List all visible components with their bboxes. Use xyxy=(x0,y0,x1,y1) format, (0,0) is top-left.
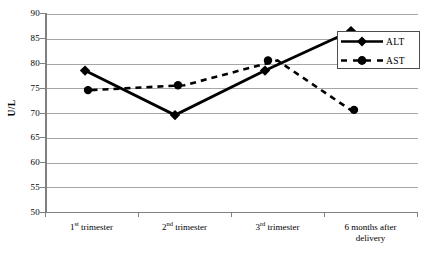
x-axis-label-2: 2nd trimester xyxy=(138,222,231,233)
y-tick-mark-60 xyxy=(40,162,45,163)
y-tick-mark-80 xyxy=(40,63,45,64)
x-axis-label-4-line1: 6 months after xyxy=(324,222,417,233)
legend-item-alt: ALT xyxy=(338,32,419,51)
x-tick-mark-2 xyxy=(231,212,232,217)
x-tick-mark-4 xyxy=(417,212,418,217)
legend-key-ast-icon xyxy=(338,51,386,70)
y-tick-label-80: 80 xyxy=(4,59,40,68)
x-axis-label-1-rest: trimester xyxy=(79,222,113,232)
x-axis-label-4-line2: delivery xyxy=(324,233,417,244)
x-axis-label-4: 6 months after delivery xyxy=(324,222,417,244)
legend-key-alt-icon xyxy=(338,32,386,51)
y-tick-label-50: 50 xyxy=(4,208,40,217)
y-tick-mark-70 xyxy=(40,113,45,114)
y-tick-label-85: 85 xyxy=(4,34,40,43)
x-tick-mark-3 xyxy=(324,212,325,217)
x-axis-label-3-rest: trimester xyxy=(265,222,299,232)
x-axis-label-1: 1st trimester xyxy=(45,222,138,233)
x-tick-mark-0 xyxy=(45,212,46,217)
y-tick-mark-65 xyxy=(40,137,45,138)
y-tick-mark-55 xyxy=(40,187,45,188)
y-tick-mark-85 xyxy=(40,38,45,39)
gridline-75 xyxy=(45,88,418,89)
y-axis-title: U/L xyxy=(7,88,17,128)
y-axis-labels: 90 85 80 75 70 65 60 55 50 xyxy=(0,0,40,263)
y-tick-label-90: 90 xyxy=(4,9,40,18)
x-axis-label-3: 3rd trimester xyxy=(231,222,324,233)
gridline-60 xyxy=(45,163,418,164)
gridline-90 xyxy=(45,14,418,15)
line-chart: 90 85 80 75 70 65 60 55 50 U/L xyxy=(0,0,431,263)
y-axis-line xyxy=(45,13,47,213)
y-tick-label-55: 55 xyxy=(4,183,40,192)
gridline-65 xyxy=(45,138,418,139)
gridline-55 xyxy=(45,187,418,188)
legend-item-ast: AST xyxy=(338,51,419,70)
y-tick-mark-75 xyxy=(40,88,45,89)
x-axis-label-2-rest: trimester xyxy=(173,222,207,232)
legend-label-alt: ALT xyxy=(386,37,405,47)
y-tick-label-60: 60 xyxy=(4,158,40,167)
gridline-70 xyxy=(45,113,418,114)
y-tick-label-65: 65 xyxy=(4,133,40,142)
legend-label-ast: AST xyxy=(386,56,405,66)
y-tick-mark-90 xyxy=(40,13,45,14)
x-tick-mark-1 xyxy=(138,212,139,217)
legend: ALT AST xyxy=(337,31,420,69)
